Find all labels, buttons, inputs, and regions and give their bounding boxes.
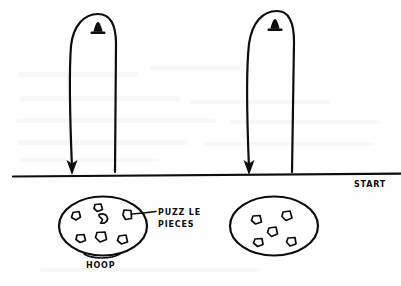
puzzle-piece <box>94 204 103 212</box>
cone-icon <box>91 22 106 34</box>
start-line <box>13 174 401 177</box>
hoop-right-outline <box>230 197 318 256</box>
start-line-group <box>13 174 401 177</box>
puzzle-piece <box>76 235 86 243</box>
puzzle-piece <box>96 232 107 242</box>
lane-left-path <box>70 14 116 172</box>
puzzle-pieces-label-line2: PIECES <box>158 220 194 229</box>
cone-icon <box>268 19 283 31</box>
puzzle-piece <box>72 212 81 221</box>
puzzle-piece <box>99 214 108 223</box>
puzzle-piece <box>268 227 278 237</box>
puzzle-pieces-label-line1: PUZZ LE <box>158 208 201 217</box>
puzzle-piece <box>282 211 292 221</box>
lane-left <box>67 14 117 175</box>
puzzle-piece <box>123 210 132 220</box>
diagram-canvas: HOOP PUZZ LE PIECES START <box>0 0 401 286</box>
puzzle-piece <box>287 238 297 247</box>
hoop-left-pieces <box>72 204 132 244</box>
callout-leader-line <box>132 212 156 215</box>
hoop-left: HOOP <box>59 197 147 271</box>
lane-right-path <box>247 11 294 172</box>
puzzle-piece <box>118 235 128 244</box>
start-label: START <box>354 180 386 189</box>
hoop-left-outline <box>59 197 147 256</box>
hoop-right <box>230 197 318 256</box>
hoop-right-pieces <box>252 211 297 247</box>
puzzle-piece <box>254 239 264 247</box>
lane-right <box>244 11 295 175</box>
puzzle-piece <box>252 216 262 225</box>
hand-drawn-diagram: HOOP PUZZ LE PIECES START <box>0 0 401 286</box>
hoop-label: HOOP <box>86 261 115 270</box>
